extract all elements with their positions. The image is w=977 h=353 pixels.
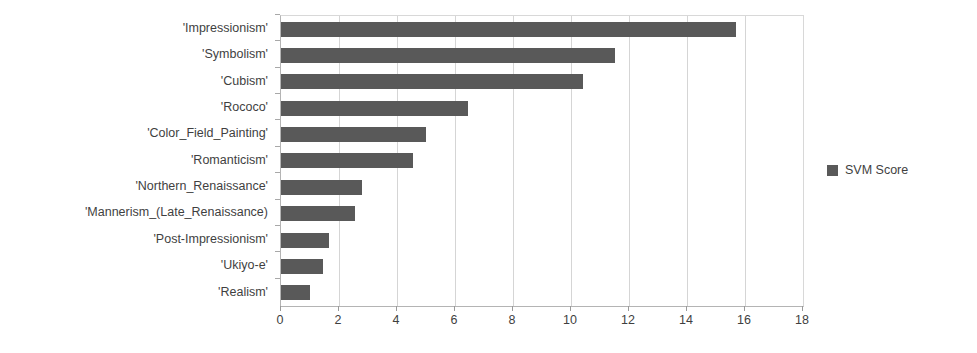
bar-slot (281, 42, 803, 68)
bar[interactable] (281, 206, 355, 221)
x-tick (686, 306, 687, 311)
svm-score-bar-chart: 'Impressionism''Symbolism''Cubism''Rococ… (0, 0, 977, 353)
category-axis-labels: 'Impressionism''Symbolism''Cubism''Rococ… (0, 15, 274, 305)
x-tick-label: 6 (451, 313, 458, 327)
category-label: 'Symbolism' (0, 41, 274, 67)
bar-slot (281, 95, 803, 121)
x-tick-label: 0 (277, 313, 284, 327)
x-tick (280, 306, 281, 311)
x-axis-ticks (280, 306, 802, 312)
category-label: 'Romanticism' (0, 147, 274, 173)
y-axis-ticks (272, 15, 280, 305)
y-tick (272, 94, 280, 120)
y-tick (272, 41, 280, 67)
x-tick (396, 306, 397, 311)
x-axis-tick-labels: 024681012141618 (280, 313, 802, 333)
plot-area (280, 15, 804, 307)
category-label: 'Mannerism_(Late_Renaissance) (0, 200, 274, 226)
x-tick (570, 306, 571, 311)
bar-slot (281, 174, 803, 200)
x-tick-label: 14 (679, 313, 693, 327)
bar[interactable] (281, 127, 426, 142)
legend-swatch-svm-score (827, 165, 838, 176)
x-tick-label: 4 (393, 313, 400, 327)
bar[interactable] (281, 48, 615, 63)
x-tick (744, 306, 745, 311)
bar-slot (281, 148, 803, 174)
x-tick (454, 306, 455, 311)
y-tick (272, 68, 280, 94)
legend-label-svm-score: SVM Score (845, 163, 908, 177)
y-tick (272, 147, 280, 173)
x-tick (628, 306, 629, 311)
x-tick-label: 8 (509, 313, 516, 327)
category-label: 'Ukiyo-e' (0, 252, 274, 278)
bar[interactable] (281, 22, 736, 37)
bar-slot (281, 253, 803, 279)
y-tick (272, 226, 280, 252)
bar-slot (281, 121, 803, 147)
bar-series-svm-score (281, 16, 803, 306)
x-tick-label: 18 (795, 313, 809, 327)
chart-legend: SVM Score (827, 163, 908, 177)
bar-slot (281, 280, 803, 306)
category-label: 'Realism' (0, 279, 274, 305)
category-label: 'Cubism' (0, 68, 274, 94)
x-tick-label: 12 (621, 313, 635, 327)
bar[interactable] (281, 74, 583, 89)
bar[interactable] (281, 259, 323, 274)
bar-slot (281, 69, 803, 95)
y-tick (272, 120, 280, 146)
bar-slot (281, 227, 803, 253)
category-label: 'Post-Impressionism' (0, 226, 274, 252)
x-tick (512, 306, 513, 311)
bar[interactable] (281, 285, 310, 300)
category-label: 'Impressionism' (0, 15, 274, 41)
x-tick (338, 306, 339, 311)
bar[interactable] (281, 180, 362, 195)
category-label: 'Rococo' (0, 94, 274, 120)
y-tick (272, 200, 280, 226)
bar[interactable] (281, 101, 468, 116)
y-tick (272, 279, 280, 305)
x-tick-label: 10 (563, 313, 577, 327)
bar-slot (281, 16, 803, 42)
x-tick (802, 306, 803, 311)
y-tick (272, 15, 280, 41)
x-tick-label: 2 (335, 313, 342, 327)
bar[interactable] (281, 153, 413, 168)
y-tick (272, 252, 280, 278)
bar-slot (281, 201, 803, 227)
category-label: 'Northern_Renaissance' (0, 173, 274, 199)
bar[interactable] (281, 233, 329, 248)
y-tick (272, 173, 280, 199)
category-label: 'Color_Field_Painting' (0, 120, 274, 146)
x-tick-label: 16 (737, 313, 751, 327)
